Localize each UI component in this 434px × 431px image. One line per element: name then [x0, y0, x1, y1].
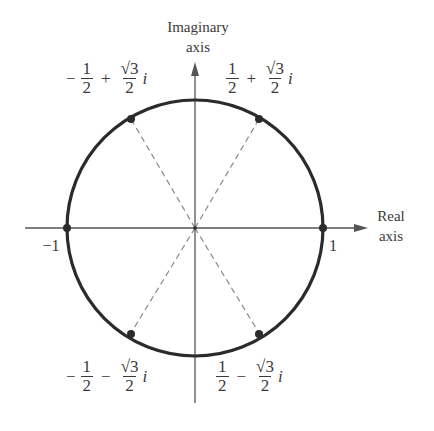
real-axis-label-line1: Real — [368, 209, 414, 224]
sqrt-expression: √3 — [119, 358, 141, 376]
fraction-denominator: 2 — [269, 78, 282, 97]
point-120deg — [127, 115, 135, 123]
label-point-60deg: 1 2 + √3 2 i — [224, 60, 293, 97]
expr-operator: − — [101, 367, 111, 387]
sqrt-expression: √3 — [119, 60, 141, 78]
imaginary-axis-label: Imaginary axis — [148, 20, 248, 55]
imag-part-fraction: √3 2 — [119, 358, 141, 395]
fraction-denominator: 2 — [81, 376, 94, 395]
expr-sign: − — [66, 69, 76, 89]
radicand: 3 — [130, 357, 139, 376]
label-point-240deg: − 1 2 − √3 2 i — [66, 358, 147, 395]
fraction-denominator: 2 — [226, 78, 239, 97]
imag-part-fraction: √3 2 — [264, 60, 286, 97]
sqrt-expression: √3 — [264, 60, 286, 78]
real-part-fraction: 1 2 — [216, 358, 229, 395]
fraction-numerator: 1 — [81, 358, 94, 376]
label-point-120deg: − 1 2 + √3 2 i — [66, 60, 147, 97]
imaginary-unit: i — [143, 69, 148, 89]
real-part-fraction: 1 2 — [81, 358, 94, 395]
imaginary-axis-arrow-icon — [191, 62, 199, 76]
point-neg-one — [63, 224, 71, 232]
point-pos-one — [319, 224, 327, 232]
fraction-numerator: 1 — [81, 60, 94, 78]
imaginary-unit: i — [143, 367, 148, 387]
label-point-300deg: 1 2 − √3 2 i — [214, 358, 283, 395]
real-axis-label: Real axis — [368, 209, 414, 244]
fraction-denominator: 2 — [216, 376, 229, 395]
fraction-denominator: 2 — [123, 376, 136, 395]
expr-sign: − — [66, 367, 76, 387]
expr-operator: − — [237, 367, 247, 387]
tick-label-neg-one: −1 — [36, 238, 66, 253]
tick-label-pos-one: 1 — [326, 238, 340, 253]
fraction-numerator: 1 — [226, 60, 239, 78]
point-300deg — [255, 330, 263, 338]
imaginary-unit: i — [278, 367, 283, 387]
expr-operator: + — [101, 69, 111, 89]
real-part-fraction: 1 2 — [226, 60, 239, 97]
radicand: 3 — [130, 59, 139, 78]
sqrt-icon: √ — [121, 59, 130, 78]
point-60deg — [255, 115, 263, 123]
sqrt-expression: √3 — [254, 358, 276, 376]
imaginary-unit: i — [288, 69, 293, 89]
fraction-denominator: 2 — [123, 78, 136, 97]
fraction-denominator: 2 — [81, 78, 94, 97]
real-axis-label-line2: axis — [368, 229, 414, 244]
point-240deg — [127, 330, 135, 338]
real-axis-arrow-icon — [354, 224, 368, 232]
imaginary-axis-label-line1: Imaginary — [148, 20, 248, 35]
sqrt-icon: √ — [121, 357, 130, 376]
imag-part-fraction: √3 2 — [254, 358, 276, 395]
radicand: 3 — [265, 357, 274, 376]
imag-part-fraction: √3 2 — [119, 60, 141, 97]
fraction-numerator: 1 — [216, 358, 229, 376]
real-part-fraction: 1 2 — [81, 60, 94, 97]
fraction-denominator: 2 — [259, 376, 272, 395]
radicand: 3 — [275, 59, 284, 78]
imaginary-axis-label-line2: axis — [148, 40, 248, 55]
expr-operator: + — [247, 69, 257, 89]
origin-point — [193, 226, 197, 230]
